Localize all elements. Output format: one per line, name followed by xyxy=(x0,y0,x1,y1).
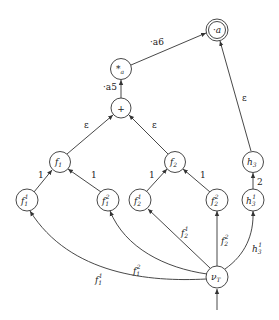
edge-f2-2-f2 xyxy=(183,169,210,192)
node-f1-1: f11 xyxy=(16,189,38,211)
edge-label-f2-1-f2: 1 xyxy=(149,170,155,180)
node-h3: h3 xyxy=(243,152,264,173)
node-label-h3-1: h31 xyxy=(246,193,256,207)
node-f2-2: f22 xyxy=(206,189,228,211)
node-label-f1-2: f12 xyxy=(101,193,110,207)
edge-f2-plus xyxy=(129,115,168,154)
node-plus: + xyxy=(111,98,131,118)
node-f1-2: f12 xyxy=(97,189,119,211)
node-f2: f2 xyxy=(165,152,186,173)
edge-label-star-final: ·a6 xyxy=(150,37,164,47)
edge-label-nuT-f1-2: f12 xyxy=(132,263,141,277)
node-label-f1-1: f11 xyxy=(20,193,29,207)
edge-star-final xyxy=(131,33,206,65)
edge-label-f1-plus: ε xyxy=(84,120,89,130)
edge-label-plus-star: ·a5 xyxy=(103,82,117,92)
edge-label-f2-plus: ε xyxy=(152,120,157,130)
node-f2-1: f21 xyxy=(129,189,151,211)
node-nuT: νT xyxy=(206,266,228,288)
edge-label-h3-1-h3: 2 xyxy=(257,177,263,187)
edge-label-f2-2-f2: 1 xyxy=(200,170,206,180)
edge-label-f1-2-f1: 1 xyxy=(91,170,97,180)
edge-label-h3-final: ε xyxy=(242,93,247,103)
edge-label-nuT-f1-1: f11 xyxy=(94,272,103,286)
node-star: *a xyxy=(111,59,132,80)
edge-label-f1-1-f1: 1 xyxy=(38,170,44,180)
node-label-final: ·a xyxy=(213,25,221,35)
node-label-plus: + xyxy=(117,104,125,114)
edge-label-nuT-h3-1: h31 xyxy=(252,241,262,255)
edge-f1-plus xyxy=(67,115,113,154)
node-final: ·a xyxy=(206,19,228,41)
edge-nuT-h3-1 xyxy=(225,211,253,269)
edge-label-nuT-f2-2: f22 xyxy=(220,233,229,247)
edge-label-nuT-f2-1: f21 xyxy=(180,225,189,239)
node-f1: f1 xyxy=(50,152,71,173)
node-h3-1: h31 xyxy=(242,189,264,211)
edge-nuT-f1-2 xyxy=(110,211,207,274)
automaton-diagram: ·a6 ·a5 ε ε ε 1 1 1 1 2 f11 f12 f21 f22 … xyxy=(0,0,279,320)
node-label-f2-2: f22 xyxy=(210,193,219,207)
edge-nuT-f1-1 xyxy=(30,211,206,280)
node-label-f2-1: f21 xyxy=(133,193,142,207)
